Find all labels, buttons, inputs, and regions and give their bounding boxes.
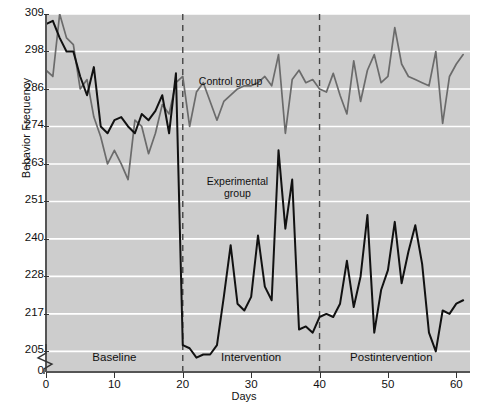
y-tick-label: 228 bbox=[4, 269, 44, 281]
y-tick-mark bbox=[44, 351, 49, 352]
y-tick-label: 217 bbox=[4, 307, 44, 319]
x-tick-mark bbox=[46, 372, 47, 378]
y-tick-label: 263 bbox=[4, 157, 44, 169]
y-tick-label: 286 bbox=[4, 82, 44, 94]
y-tick-mark bbox=[44, 276, 49, 277]
y-tick-mark bbox=[44, 239, 49, 240]
y-tick-mark bbox=[44, 314, 49, 315]
y-tick-label: 298 bbox=[4, 44, 44, 56]
x-tick-label: 60 bbox=[436, 378, 476, 390]
y-tick-label: 274 bbox=[4, 119, 44, 131]
x-tick-mark bbox=[251, 372, 252, 378]
x-tick-label: 40 bbox=[300, 378, 340, 390]
experimental-group-label: Experimental group bbox=[192, 175, 282, 199]
y-tick-mark bbox=[44, 51, 49, 52]
x-tick-mark bbox=[183, 372, 184, 378]
y-tick-label: 251 bbox=[4, 194, 44, 206]
phase-label: Baseline bbox=[49, 351, 179, 363]
x-tick-label: 0 bbox=[26, 378, 66, 390]
x-tick-mark bbox=[456, 372, 457, 378]
phase-label: Intervention bbox=[186, 351, 316, 363]
y-tick-label: 240 bbox=[4, 232, 44, 244]
x-tick-mark bbox=[114, 372, 115, 378]
control-group-label: Control group bbox=[186, 75, 276, 87]
x-tick-mark bbox=[320, 372, 321, 378]
x-tick-label: 10 bbox=[94, 378, 134, 390]
chart-figure: Behavior Frequency Days 2052172282402512… bbox=[0, 0, 488, 408]
y-tick-mark bbox=[44, 14, 49, 15]
x-tick-label: 30 bbox=[231, 378, 271, 390]
y-tick-mark bbox=[44, 201, 49, 202]
x-tick-label: 50 bbox=[368, 378, 408, 390]
x-axis-line bbox=[46, 371, 470, 373]
y-tick-mark bbox=[44, 164, 49, 165]
y-tick-mark bbox=[44, 89, 49, 90]
x-tick-label: 20 bbox=[163, 378, 203, 390]
y-axis-line bbox=[45, 14, 47, 372]
series-line bbox=[46, 14, 463, 180]
phase-label: Postintervention bbox=[326, 351, 456, 363]
y-tick-mark bbox=[44, 126, 49, 127]
y-tick-label: 309 bbox=[4, 7, 44, 19]
x-tick-mark bbox=[388, 372, 389, 378]
x-axis-title: Days bbox=[0, 390, 488, 402]
